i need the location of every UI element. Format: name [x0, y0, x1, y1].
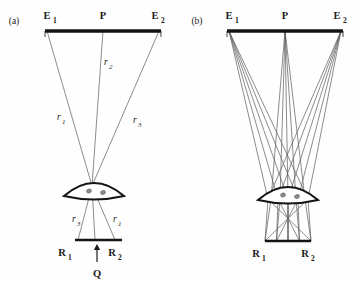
panel-tag-a: (a) [9, 16, 20, 27]
ray-distance-subscript: 3 [137, 121, 142, 129]
ray-out-2-0 [268, 199, 311, 241]
points_bottom-subscript: 1 [262, 254, 266, 263]
ray-group [47, 31, 159, 240]
points_top-label: E [225, 10, 232, 21]
ray-in-2-2 [288, 31, 341, 199]
points_bottom-label: R [108, 247, 116, 258]
ray-in-0-1 [229, 31, 278, 199]
points_bottom-label: R [252, 248, 260, 259]
eye-lens [258, 187, 318, 204]
points_bottom-subscript: 2 [118, 253, 122, 262]
arrow-head-icon [94, 244, 100, 250]
points_bottom-label: R [301, 248, 309, 259]
points_top-subscript: 1 [235, 16, 239, 25]
ray-in-1-1 [280, 31, 285, 199]
panels-root: (a)E1PE2R1R2r1r2r3r3r1Q(b)E1PE2R1R2 [9, 10, 347, 279]
ray-distance-label: r [72, 214, 76, 224]
points_top-label: E [151, 10, 158, 21]
ray-upper-r2 [92, 31, 103, 186]
points_bottom-subscript: 1 [68, 253, 72, 262]
points_top-label: E [333, 10, 340, 21]
points_top-label: P [100, 10, 107, 21]
panel-b: (b)E1PE2R1R2 [191, 10, 347, 263]
panel-tag-b: (b) [191, 16, 202, 27]
source-arrow: Q [93, 244, 101, 279]
ray-out-1-0 [265, 199, 271, 241]
ray-group [229, 31, 341, 241]
points_top-subscript: 2 [161, 16, 165, 25]
points_bottom-label: R [58, 247, 66, 258]
ray-upper-r3 [92, 31, 159, 186]
ray-distance-subscript: 2 [109, 63, 113, 71]
ray-distance-subscript: 1 [62, 118, 66, 126]
ray-distance-label: r [113, 214, 117, 224]
ray-distance-label: r [104, 57, 108, 67]
ray-upper-r1 [47, 31, 92, 186]
ray-out-2-4 [265, 199, 308, 241]
lens-outline-icon [64, 183, 124, 200]
optics-ray-diagram-figure: (a)E1PE2R1R2r1r2r3r3r1Q(b)E1PE2R1R2 [0, 0, 360, 282]
ray-out-1-4 [305, 199, 311, 241]
points_top-subscript: 2 [343, 16, 347, 25]
ray-in-2-1 [278, 31, 341, 199]
ray-out-0-0 [265, 199, 268, 241]
figure-canvas: (a)E1PE2R1R2r1r2r3r3r1Q(b)E1PE2R1R2 [0, 0, 360, 282]
eye-lens [64, 183, 124, 200]
source-point-label: Q [93, 268, 101, 279]
lens-outline-icon [258, 187, 318, 204]
ray-distance-subscript: 3 [76, 220, 81, 228]
ray-in-2-4 [308, 31, 341, 199]
points_top-label: E [43, 10, 50, 21]
ray-in-1-0 [271, 31, 285, 199]
points_top-subscript: 1 [53, 16, 57, 25]
ray-out-0-4 [308, 199, 311, 241]
ray-distance-label: r [57, 112, 61, 122]
ray-in-0-0 [229, 31, 268, 199]
points_top-label: P [282, 10, 289, 21]
points_bottom-subscript: 2 [311, 254, 315, 263]
ray-distance-subscript: 1 [118, 220, 122, 228]
ray-distance-label: r [133, 115, 137, 125]
panel-a: (a)E1PE2R1R2r1r2r3r3r1Q [9, 10, 165, 279]
